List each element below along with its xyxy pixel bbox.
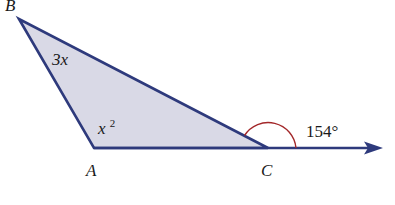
- angle-label-a-base: x: [97, 119, 106, 138]
- angle-label-b: 3x: [51, 50, 69, 69]
- triangle-diagram: B A C 3x x 2 154°: [0, 0, 395, 205]
- exterior-angle-label: 154°: [306, 122, 338, 141]
- vertex-label-a: A: [85, 161, 97, 180]
- angle-label-a-exponent: 2: [110, 117, 116, 129]
- triangle-abc: [19, 19, 268, 148]
- vertex-label-c: C: [261, 161, 273, 180]
- vertex-label-b: B: [5, 0, 16, 15]
